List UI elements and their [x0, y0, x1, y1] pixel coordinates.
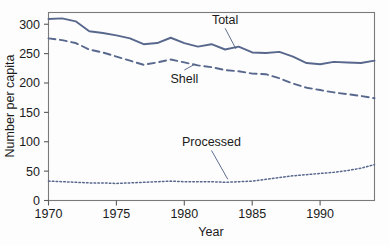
series-line-processed — [49, 165, 375, 184]
leader-line-shell — [184, 65, 194, 70]
chart-container: 300 250 200 150 100 50 0 1970 1975 1980 … — [0, 0, 389, 245]
line-chart: 300 250 200 150 100 50 0 1970 1975 1980 … — [0, 0, 389, 245]
x-tick-label: 1985 — [238, 207, 266, 221]
x-tick-label: 1980 — [170, 207, 198, 221]
y-tick-label: 250 — [19, 47, 40, 61]
y-tick-label: 300 — [19, 18, 40, 32]
series-label-total: Total — [212, 13, 238, 27]
series-label-processed: Processed — [182, 135, 241, 149]
y-tick-label: 50 — [26, 165, 40, 179]
x-axis-title: Year — [198, 225, 223, 239]
leader-line-total — [225, 28, 236, 49]
y-tick-label: 200 — [19, 76, 40, 90]
series-line-shell — [49, 38, 375, 98]
series-label-shell: Shell — [170, 72, 198, 86]
y-axis-ticks — [44, 24, 49, 200]
x-tick-label: 1975 — [102, 207, 130, 221]
y-axis-title: Number per capita — [3, 55, 17, 158]
y-axis-tick-labels: 300 250 200 150 100 50 0 — [19, 18, 40, 208]
x-axis-tick-labels: 1970 1975 1980 1985 1990 — [35, 207, 334, 221]
x-tick-label: 1990 — [306, 207, 334, 221]
leader-line-processed — [212, 150, 228, 179]
x-tick-label: 1970 — [35, 207, 63, 221]
x-axis-ticks — [49, 201, 321, 206]
y-tick-label: 100 — [19, 135, 40, 149]
y-tick-label: 0 — [33, 194, 40, 208]
y-tick-label: 150 — [19, 106, 40, 120]
